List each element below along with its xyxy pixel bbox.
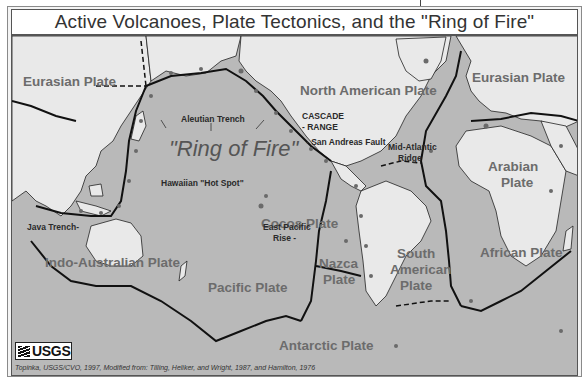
label-east-pacific-rise-2: Rise -: [273, 233, 296, 243]
label-eurasian-plate-west: Eurasian Plate: [23, 74, 116, 89]
label-african-plate: African Plate: [480, 245, 563, 260]
label-antarctic-plate: Antarctic Plate: [279, 338, 374, 353]
label-java-trench: Java Trench-: [27, 222, 79, 232]
label-san-andreas-fault: - San Andreas Fault: [306, 137, 386, 147]
label-aleutian-trench: Aleutian Trench: [181, 114, 245, 124]
label-indo-australian-plate: Indo-Australian Plate: [45, 255, 180, 270]
map-credit: Topinka, USGS/CVO, 1997, Modified from: …: [15, 364, 315, 371]
label-eurasian-plate-east: Eurasian Plate: [472, 70, 565, 85]
label-cascade-range-1: CASCADE: [302, 111, 344, 121]
label-cascade-range-2: - RANGE: [302, 122, 338, 132]
label-north-american-plate: North American Plate: [300, 83, 437, 98]
label-east-pacific-rise-1: East Pacific: [263, 222, 311, 232]
label-hawaiian-hot-spot: Hawaiian "Hot Spot": [161, 178, 244, 188]
world-map: Eurasian Plate North American Plate Eura…: [11, 35, 578, 376]
label-nazca-plate-2: Plate: [323, 272, 355, 287]
label-arabian-plate-2: Plate: [501, 175, 533, 190]
usgs-logo-text: USGS: [32, 343, 70, 359]
label-south-american-plate-1: South: [397, 246, 435, 261]
usgs-wave-icon: [18, 346, 30, 357]
label-nazca-plate-1: Nazca: [319, 256, 358, 271]
label-mid-atlantic-ridge-2: Ridge: [398, 153, 422, 163]
label-pacific-plate: Pacific Plate: [208, 280, 288, 295]
label-mid-atlantic-ridge-1: Mid-Atlantic: [388, 142, 437, 152]
label-arabian-plate-1: Arabian: [488, 159, 538, 174]
usgs-logo: USGS: [15, 342, 72, 360]
title-box: Active Volcanoes, Plate Tectonics, and t…: [11, 9, 578, 35]
label-south-american-plate-2: American: [390, 262, 452, 277]
label-south-american-plate-3: Plate: [400, 278, 432, 293]
label-ring-of-fire: "Ring of Fire": [169, 136, 298, 162]
map-title: Active Volcanoes, Plate Tectonics, and t…: [55, 11, 534, 33]
